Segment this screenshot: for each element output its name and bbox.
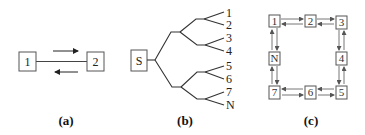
ring-node-1-label: 1 [272, 15, 278, 27]
tree-edge [205, 38, 224, 45]
ring-node-6-label: 6 [308, 86, 314, 98]
caption-c: (c) [304, 113, 318, 128]
tree-edge [205, 99, 224, 105]
tree-edge [155, 60, 181, 87]
panel-c: 1 2 3 4 5 6 7 N (c) [269, 15, 347, 128]
node-1-label: 1 [25, 55, 31, 69]
source-node-label: S [136, 54, 143, 68]
leaf-label: 6 [226, 72, 232, 86]
leaf-label: 2 [226, 18, 232, 32]
ring-node-3-label: 3 [339, 16, 345, 28]
leaf-label: 3 [226, 31, 232, 45]
tree-edge [204, 19, 224, 25]
tree-edge [205, 45, 224, 51]
leaf-label: 5 [226, 59, 232, 73]
node-2-label: 2 [93, 55, 99, 69]
leaf-label: N [226, 98, 235, 112]
tree-edge [155, 32, 180, 60]
leaf-label: 7 [226, 85, 232, 99]
ring-node-7-label: 7 [272, 86, 278, 98]
panel-b: S 1 2 3 4 5 6 7 N (b) [131, 6, 235, 128]
tree-edge [204, 12, 224, 19]
caption-b: (b) [177, 113, 193, 128]
leaf-label: 4 [226, 44, 232, 58]
ring-node-4-label: 4 [339, 52, 345, 64]
ring-node-2-label: 2 [308, 15, 314, 27]
tree-edge [181, 72, 205, 87]
tree-edge [205, 66, 224, 72]
tree-edge [205, 72, 224, 79]
caption-a: (a) [58, 113, 73, 128]
tree-edge [180, 19, 204, 32]
tree-edge [181, 87, 205, 99]
panel-a: 1 2 (a) [19, 51, 104, 128]
tree-edge [205, 92, 224, 99]
ring-node-5-label: 5 [339, 86, 345, 98]
ring-node-N-label: N [271, 52, 279, 64]
tree-edge [180, 32, 205, 45]
figure-canvas: 1 2 (a) S 1 2 3 4 5 6 7 [0, 0, 365, 135]
